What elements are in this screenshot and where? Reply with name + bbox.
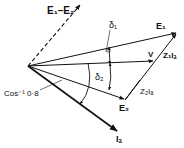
label-ia: Iₐ (116, 134, 123, 144)
label-pf-angle: Cos⁻¹ 0·8 (4, 89, 39, 98)
label-delta2: δ₂ (95, 72, 104, 82)
label-delta1: δ₁ (109, 20, 117, 30)
z2ia-vector (125, 80, 140, 100)
label-z1ia: Z₁Iₐ (163, 51, 176, 60)
label-e1: E₁ (156, 21, 166, 31)
label-e1-minus-e2: E₁–E₂ (47, 5, 74, 16)
label-z2ia: Z₂Iₐ (140, 87, 154, 96)
phasor-diagram: E₁–E₂ E₁ V Z₁Iₐ Z₂Iₐ E₂ Iₐ δ₁ δ₂ Cos⁻¹ 0… (0, 0, 184, 148)
label-e2: E₂ (119, 103, 129, 113)
delta2-arc (109, 64, 111, 90)
pf-angle-arc (80, 63, 90, 104)
ia-phasor (28, 66, 117, 131)
e2-phasor (28, 66, 124, 99)
e1-phasor (28, 33, 176, 66)
label-v: V (148, 50, 154, 59)
